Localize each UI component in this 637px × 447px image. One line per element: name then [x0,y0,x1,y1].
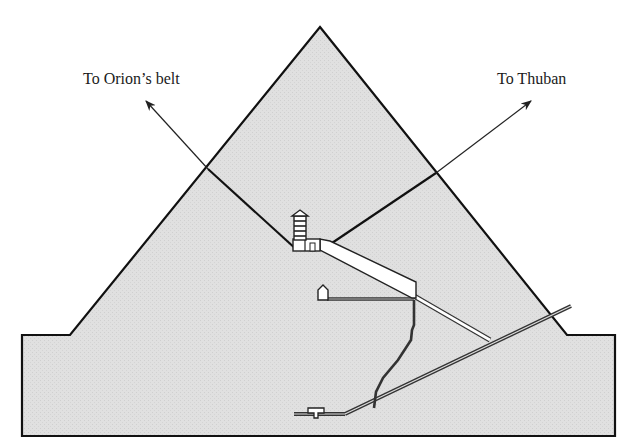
relieving-chambers [292,210,308,240]
kings-chamber [293,239,320,251]
label-orion: To Orion’s belt [83,70,180,88]
pyramid-diagram [0,0,637,447]
pyramid-outline [22,27,615,436]
thuban-arrow [436,101,531,173]
label-thuban: To Thuban [497,70,566,88]
orion-arrow [146,101,208,169]
